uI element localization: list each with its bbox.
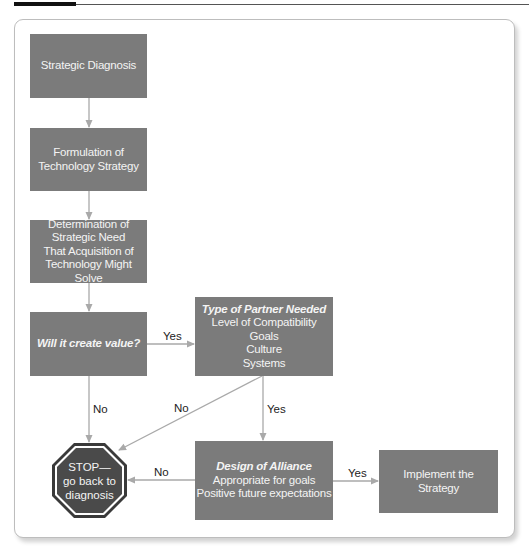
node-item: Goals: [249, 330, 278, 344]
node-strategic-diagnosis: Strategic Diagnosis: [30, 34, 147, 98]
node-item: Systems: [243, 357, 286, 371]
node-item: Culture: [246, 343, 282, 357]
node-title: Type of Partner Needed: [202, 303, 326, 317]
node-item: Level of Compatibility: [212, 316, 317, 330]
node-label: Technology Strategy: [38, 160, 138, 174]
stop-line: diagnosis: [65, 488, 114, 502]
edge-label-value-yes: Yes: [163, 330, 182, 342]
stop-line: STOP—: [68, 460, 111, 474]
node-label: That Acquisition of: [43, 245, 133, 259]
node-formulation: Formulation of Technology Strategy: [30, 128, 147, 191]
edge-label-alliance-no: No: [154, 466, 169, 478]
node-label: Implement the: [403, 468, 473, 482]
node-label: Strategic Need: [52, 231, 125, 245]
node-create-value: Will it create value?: [30, 312, 147, 376]
stop-line: go back to: [63, 474, 116, 488]
node-label: Strategic Diagnosis: [41, 59, 136, 73]
decision-label: Will it create value?: [37, 337, 140, 351]
node-determination: Determination of Strategic Need That Acq…: [30, 220, 147, 283]
node-implement: Implement the Strategy: [379, 450, 498, 513]
node-label: Strategy: [418, 482, 459, 496]
node-item: Appropriate for goals: [213, 474, 316, 488]
node-label: Determination of: [48, 218, 129, 232]
node-item: Positive future expectations: [196, 487, 331, 501]
node-title: Design of Alliance: [216, 460, 312, 474]
edge-label-partner-yes: Yes: [267, 403, 286, 415]
stop-label: STOP— go back to diagnosis: [52, 443, 127, 518]
node-label: Technology Might Solve: [30, 258, 147, 285]
node-design-of-alliance: Design of Alliance Appropriate for goals…: [195, 441, 333, 520]
arrow-partner-no: [119, 376, 262, 450]
edge-label-value-no: No: [93, 403, 108, 415]
node-label: Formulation of: [53, 146, 124, 160]
node-partner-needed: Type of Partner Needed Level of Compatib…: [195, 297, 333, 376]
edge-label-alliance-yes: Yes: [348, 467, 367, 479]
edge-label-partner-no: No: [174, 402, 189, 414]
